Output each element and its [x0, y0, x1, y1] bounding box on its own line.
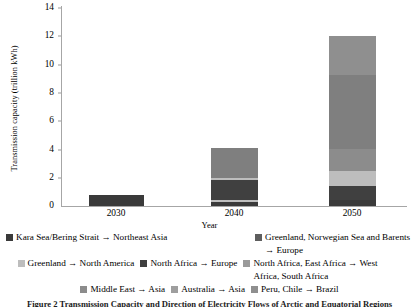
bar-segment[interactable]	[89, 195, 144, 206]
bar-column-2030[interactable]	[89, 195, 144, 206]
bar-segment[interactable]	[329, 200, 376, 206]
legend-item-label: Greenland → North America	[28, 257, 135, 270]
legend-swatch-icon	[140, 260, 147, 267]
legend-item-label: North Africa → Europe	[150, 257, 237, 270]
plot-area: Transmission capacity (trillion kWh) 14 …	[0, 0, 419, 232]
x-axis-label: Year	[0, 220, 419, 230]
legend-item[interactable]: North Africa, East Africa → West Africa,…	[243, 257, 401, 283]
legend-swatch-icon	[6, 234, 13, 241]
bar-segment[interactable]	[329, 75, 376, 149]
y-tick-label: 8	[32, 88, 54, 97]
legend-item-label: Australia → Asia	[181, 283, 245, 296]
bar-segment[interactable]	[211, 202, 258, 206]
legend-row-3: Middle East → AsiaAustralia → AsiaPeru, …	[0, 283, 419, 296]
y-tick-label: 0	[32, 201, 54, 210]
y-tick-label: 14	[32, 3, 54, 12]
legend-swatch-icon	[18, 260, 25, 267]
legend-swatch-icon	[243, 260, 250, 267]
legend-item[interactable]: Kara Sea/Bering Strait → Northeast Asia	[6, 231, 167, 244]
y-axis-label: Transmission capacity (trillion kWh)	[10, 9, 19, 209]
y-axis-tick-labels: 14 12 10 8 6 4 2 0	[30, 0, 54, 232]
legend-swatch-icon	[171, 286, 178, 293]
legend-item[interactable]: Greenland, Norwegian Sea and Barents → E…	[255, 231, 413, 257]
y-tick-label: 12	[32, 31, 54, 40]
legend-item[interactable]: Peru, Chile → Brazil	[251, 283, 339, 296]
legend-item-label: Middle East → Asia	[90, 283, 165, 296]
legend-swatch-icon	[255, 234, 262, 241]
legend-item-label: North Africa, East Africa → West Africa,…	[253, 257, 401, 283]
legend-item[interactable]: Greenland → North America	[18, 257, 135, 270]
y-tick-label: 10	[32, 60, 54, 69]
bar-segment[interactable]	[211, 148, 258, 178]
x-tick-label: 2030	[107, 208, 126, 218]
legend-item-label: Greenland, Norwegian Sea and Barents → E…	[265, 231, 413, 257]
legend-swatch-icon	[251, 286, 258, 293]
bar-segment[interactable]	[329, 171, 376, 186]
bar-series-container	[62, 0, 407, 206]
chart-legend: Kara Sea/Bering Strait → Northeast AsiaG…	[0, 231, 419, 296]
x-tick-label: 2040	[225, 208, 244, 218]
legend-item-label: Kara Sea/Bering Strait → Northeast Asia	[16, 231, 167, 244]
bar-segment[interactable]	[211, 180, 258, 201]
bar-segment[interactable]	[329, 36, 376, 74]
legend-row-2: Greenland → North AmericaNorth Africa → …	[0, 257, 419, 283]
figure-stacked-bar-chart: Transmission capacity (trillion kWh) 14 …	[0, 0, 419, 307]
bar-column-2040[interactable]	[211, 148, 258, 206]
bar-segment[interactable]	[329, 149, 376, 171]
legend-swatch-icon	[80, 286, 87, 293]
legend-item[interactable]: Australia → Asia	[171, 283, 245, 296]
bar-segment[interactable]	[329, 186, 376, 200]
y-tick-label: 2	[32, 173, 54, 182]
legend-item[interactable]: North Africa → Europe	[140, 257, 237, 270]
legend-row-1: Kara Sea/Bering Strait → Northeast AsiaG…	[0, 231, 419, 257]
y-tick-label: 6	[32, 116, 54, 125]
x-axis-line	[61, 206, 407, 207]
y-tick-label: 4	[32, 145, 54, 154]
x-tick-label: 2050	[343, 208, 362, 218]
legend-item[interactable]: Middle East → Asia	[80, 283, 165, 296]
legend-item-label: Peru, Chile → Brazil	[261, 283, 339, 296]
figure-caption: Figure 2 Transmission Capacity and Direc…	[0, 299, 419, 307]
bar-column-2050[interactable]	[329, 36, 376, 206]
